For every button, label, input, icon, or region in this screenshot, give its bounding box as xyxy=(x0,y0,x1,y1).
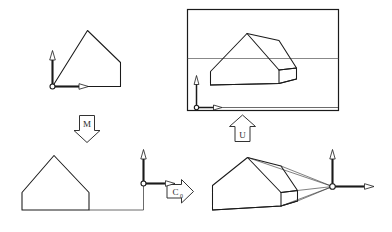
house-3d-roof-slope-bottom-right xyxy=(248,158,298,193)
axis-origin-bottom-right xyxy=(330,184,336,190)
axis-connector-bottom-left xyxy=(89,184,144,210)
axis-origin-top-left xyxy=(50,84,55,89)
y-axis-arrowhead-bottom-right xyxy=(330,150,335,160)
diagram-root: Viewing transformation pipeline diagram xyxy=(0,0,392,232)
y-axis-arrowhead-top-right xyxy=(194,76,199,85)
block-arrow-up-u-label: U xyxy=(239,130,246,140)
x-axis-arrowhead-top-right xyxy=(214,105,223,110)
pipeline-diagram-figure: Viewing transformation pipeline diagram xyxy=(0,0,392,232)
block-arrow-right-c0-subscript: 0 xyxy=(180,193,183,199)
panel-bottom-left xyxy=(22,150,175,211)
house-3d-base-bottom-right xyxy=(213,201,298,210)
y-axis-arrowhead-top-left xyxy=(50,51,56,61)
x-axis-arrowhead-bottom-right xyxy=(365,184,375,190)
panel-top-left xyxy=(50,31,121,90)
panel-bottom-right xyxy=(213,150,375,211)
projection-ray-2 xyxy=(281,166,333,187)
block-arrow-down-m-label: M xyxy=(83,119,91,129)
house-outline-2d-bottom-left xyxy=(22,156,89,211)
house-3d-roof-slope-top-right xyxy=(247,34,297,71)
house-3d-front-face-top-right xyxy=(211,34,280,86)
viewport-frame xyxy=(188,10,339,111)
house-outline-2d-top-left xyxy=(53,31,121,87)
panel-top-right xyxy=(188,10,339,111)
block-arrow-right-c0-label: C xyxy=(172,187,178,197)
y-axis-arrowhead-bottom-left xyxy=(141,150,146,160)
house-3d-base-top-right xyxy=(211,79,297,85)
axis-origin-bottom-left xyxy=(141,181,146,186)
block-arrow-up-u: U xyxy=(230,115,256,142)
x-axis-arrowhead-top-left xyxy=(79,84,89,90)
projection-ray-1 xyxy=(248,158,333,187)
block-arrow-down-m: M xyxy=(74,116,100,143)
axis-origin-top-right xyxy=(194,105,198,109)
